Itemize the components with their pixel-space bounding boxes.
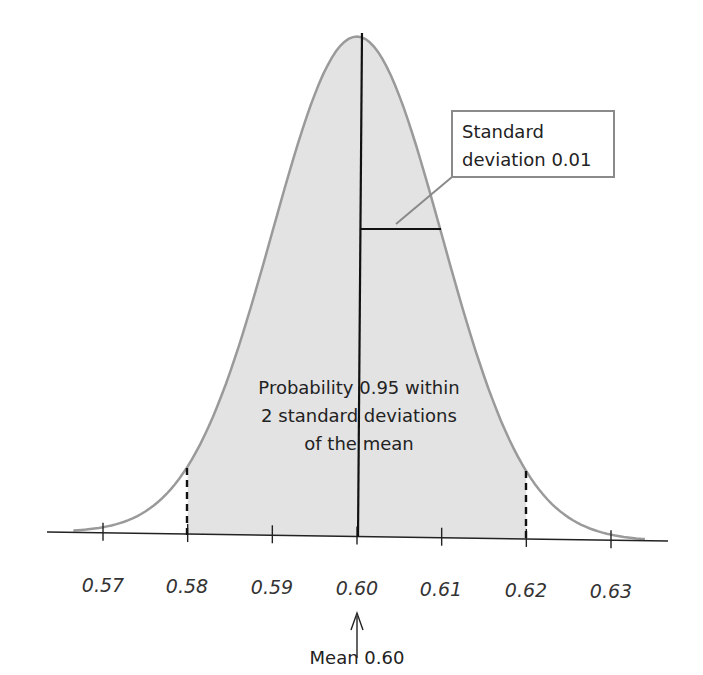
tick-label: 0.62 <box>505 579 547 601</box>
tick-label: 0.61 <box>420 578 462 600</box>
tick-label: 0.58 <box>166 575 208 597</box>
mean-label-text: Mean 0.60 <box>290 647 424 668</box>
tick-labels: 0.57 0.58 0.59 0.60 0.61 0.62 0.63 <box>82 574 632 602</box>
tick-label: 0.57 <box>82 574 124 596</box>
sd-box-line-1: Standard <box>462 121 544 142</box>
tick-label: 0.63 <box>590 580 632 602</box>
sd-box-line-2: deviation 0.01 <box>462 149 591 170</box>
probability-text-line-3: of the mean <box>304 433 413 454</box>
probability-text-line-1: Probability 0.95 within <box>258 377 459 398</box>
normal-curve-diagram: 0.57 0.58 0.59 0.60 0.61 0.62 0.63 Stand… <box>0 0 703 675</box>
probability-text-line-2: 2 standard deviations <box>261 405 457 426</box>
tick-label: 0.59 <box>251 576 293 598</box>
tick-label: 0.60 <box>336 577 378 599</box>
